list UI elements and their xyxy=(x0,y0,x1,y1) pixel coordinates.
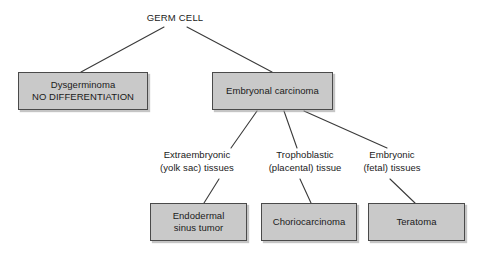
node-dysgerminoma-line2: NO DIFFERENTIATION xyxy=(32,91,134,104)
label-embryonic-tissues: Embryonic (fetal) tissues xyxy=(355,149,429,174)
node-choriocarcinoma: Choriocarcinoma xyxy=(261,203,357,241)
label-trophoblastic-line1: Trophoblastic xyxy=(276,149,333,160)
root-node-germ-cell: GERM CELL xyxy=(128,12,222,24)
label-embryonic-line2: (fetal) tissues xyxy=(363,162,420,173)
node-choriocarcinoma-line1: Choriocarcinoma xyxy=(273,216,346,229)
node-teratoma-line1: Teratoma xyxy=(396,216,436,229)
node-endodermal-sinus-tumor-line1: Endodermal xyxy=(173,210,225,223)
connector-embryonal-to-embryonic xyxy=(304,111,387,148)
label-trophoblastic-tissue: Trophoblastic (placental) tissue xyxy=(259,149,351,174)
label-extraembryonic-line1: Extraembryonic xyxy=(164,149,231,160)
label-trophoblastic-line2: (placental) tissue xyxy=(269,162,342,173)
connector-embryonic-to-teratoma xyxy=(390,179,415,203)
connector-germcell-to-dysgerminoma xyxy=(81,27,164,72)
connector-embryonal-to-trophoblastic xyxy=(284,111,297,148)
connector-embryonal-to-extraembryonic xyxy=(231,111,257,148)
germ-cell-tumor-diagram: GERM CELL Dysgerminoma NO DIFFERENTIATIO… xyxy=(0,0,479,256)
node-dysgerminoma-line1: Dysgerminoma xyxy=(51,79,115,92)
label-extraembryonic-line2: (yolk sac) tissues xyxy=(160,162,234,173)
label-embryonic-line1: Embryonic xyxy=(369,149,414,160)
node-embryonal-carcinoma: Embryonal carcinoma xyxy=(212,72,333,110)
connector-extraembryonic-to-endodermal xyxy=(204,179,219,203)
connector-trophoblastic-to-chorio xyxy=(300,179,311,203)
node-embryonal-carcinoma-line1: Embryonal carcinoma xyxy=(226,85,319,98)
label-extraembryonic-tissues: Extraembryonic (yolk sac) tissues xyxy=(151,149,243,174)
node-dysgerminoma: Dysgerminoma NO DIFFERENTIATION xyxy=(18,72,148,110)
node-endodermal-sinus-tumor-line2: sinus tumor xyxy=(174,222,224,235)
node-teratoma: Teratoma xyxy=(368,203,465,241)
root-node-label: GERM CELL xyxy=(147,12,204,23)
node-endodermal-sinus-tumor: Endodermal sinus tumor xyxy=(150,203,247,241)
connector-germcell-to-embryonal xyxy=(187,27,272,72)
